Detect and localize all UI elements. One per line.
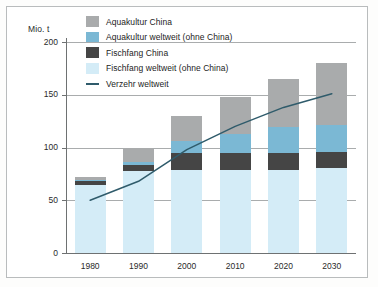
x-tick-label: 2030	[309, 261, 355, 271]
y-axis-unit-label: Mio. t	[28, 24, 49, 34]
x-tick-label: 2020	[261, 261, 307, 271]
bar-segment	[268, 170, 299, 253]
bar-segment	[220, 134, 251, 153]
bar-segment	[171, 170, 202, 253]
y-tick-label: 150	[28, 89, 58, 99]
bar-segment	[220, 97, 251, 134]
bar-segment	[220, 170, 251, 253]
bar-segment	[123, 171, 154, 253]
legend-item: Verzehr weltweit	[86, 76, 232, 92]
bar-segment	[75, 180, 106, 181]
bar-segment	[123, 148, 154, 163]
y-tick-label: 100	[28, 142, 58, 152]
legend-item: Fischfang weltweit (ohne China)	[86, 61, 232, 77]
bar-column	[268, 0, 299, 287]
bar-column	[220, 0, 251, 287]
bar-segment	[171, 153, 202, 170]
bar-segment	[75, 181, 106, 185]
bar-segment	[316, 125, 347, 151]
gridline	[66, 148, 356, 149]
bar-segment	[75, 185, 106, 253]
legend-item: Aquakultur China	[86, 14, 232, 30]
bar-segment	[171, 141, 202, 153]
gridline	[66, 200, 356, 201]
bar-segment	[171, 116, 202, 141]
bar-segment	[123, 162, 154, 165]
bar-column	[171, 0, 202, 287]
bar-segment	[268, 79, 299, 128]
bar-segment	[316, 152, 347, 168]
y-axis-line	[66, 38, 67, 254]
gridline	[66, 42, 356, 43]
x-tick-label: 2010	[212, 261, 258, 271]
x-axis-line	[66, 253, 356, 254]
x-tick-label: 2000	[164, 261, 210, 271]
bar-column	[75, 0, 106, 287]
y-tick-label: 0	[28, 248, 58, 258]
x-tick-label: 1990	[116, 261, 162, 271]
bar-column	[123, 0, 154, 287]
chart-legend: Aquakultur ChinaAquakultur weltweit (ohn…	[86, 14, 232, 92]
x-tick-label: 1980	[67, 261, 113, 271]
bar-segment	[268, 153, 299, 170]
bar-segment	[75, 177, 106, 180]
gridline	[66, 95, 356, 96]
bar-segment	[316, 63, 347, 125]
bar-segment	[123, 165, 154, 170]
bar-segment	[268, 127, 299, 152]
y-tick-label: 50	[28, 195, 58, 205]
chart-screenshot: Mio. t Aquakultur ChinaAquakultur weltwe…	[0, 0, 378, 287]
bar-column	[316, 0, 347, 287]
bar-segment	[220, 153, 251, 170]
legend-item: Fischfang China	[86, 45, 232, 61]
bar-segment	[316, 168, 347, 253]
chart-plot-area: Mio. t Aquakultur ChinaAquakultur weltwe…	[0, 0, 378, 287]
y-tick-label: 200	[28, 37, 58, 47]
